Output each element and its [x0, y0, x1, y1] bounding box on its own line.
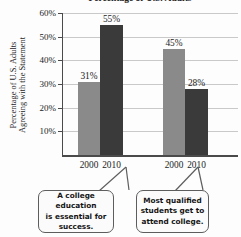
y-tick-label-60: 60% [40, 8, 57, 18]
bar-value-group2-2000: 45% [165, 38, 182, 48]
callout-left-line-2: is essential for [46, 212, 107, 222]
y-tick-label-10: 10% [40, 126, 57, 136]
chart-figure: Percentage of U.S. Adults Percentage of … [0, 0, 241, 237]
callout-left-line-3: success. [59, 222, 94, 232]
y-tick-label-30: 30% [40, 79, 57, 89]
y-axis-title-line-1: Percentage of U.S. Adults [9, 42, 18, 129]
y-axis-title: Percentage of U.S. Adults Agreeing with … [5, 10, 31, 160]
x-axis-line [62, 155, 238, 157]
y-tick-label-50: 50% [40, 32, 57, 42]
y-tick-label-40: 40% [40, 55, 57, 65]
gridline-40 [62, 60, 238, 61]
callout-left-tail [96, 166, 132, 192]
callout-right-line-1: Most qualified [143, 196, 202, 206]
callout-right: Most qualified students get to attend co… [136, 190, 209, 233]
bar-group1-2000 [78, 82, 100, 155]
callout-right-tail [172, 166, 208, 192]
callout-right-line-2: students get to [141, 206, 204, 216]
chart-title: Percentage of U.S. Adults [60, 0, 220, 3]
bar-value-group2-2010: 28% [188, 78, 205, 88]
bar-group1-2010 [100, 25, 123, 155]
bar-group2-2000 [163, 49, 185, 156]
callout-left-line-1: A college education [42, 191, 110, 211]
callout-right-line-3: attend college. [141, 217, 203, 227]
y-axis-title-line-2: Agreeing with the Statement [18, 37, 27, 133]
bar-group2-2010 [185, 89, 208, 155]
callout-left: A college education is essential for suc… [38, 190, 114, 233]
y-axis-line [62, 13, 63, 156]
bar-value-group1-2010: 55% [103, 14, 120, 24]
plot-area: 60% 50% 40% 30% 20% 10% 31% 55% 45% 28% … [62, 13, 238, 155]
gridline-50 [62, 37, 238, 38]
y-tick-label-20: 20% [40, 103, 57, 113]
gridline-60 [62, 13, 238, 14]
bar-value-group1-2000: 31% [80, 71, 97, 81]
